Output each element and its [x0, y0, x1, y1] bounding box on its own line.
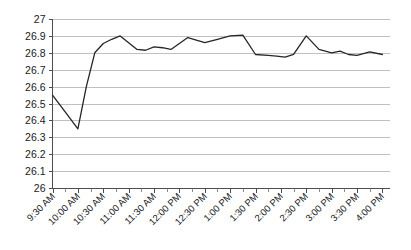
gridlines-group — [49, 20, 391, 189]
y-axis-tick-label: 26.5 — [25, 98, 46, 110]
y-axis-tick-label: 26.2 — [25, 148, 46, 160]
line-chart: 2726.926.826.726.626.526.426.326.226.126… — [0, 0, 411, 250]
x-axis-tick-label: 4:00 PM — [353, 191, 386, 224]
y-axis-tick-label: 26.6 — [25, 81, 46, 93]
y-axis-tick-label: 26.1 — [25, 165, 46, 177]
data-series-group — [53, 35, 383, 129]
chart-screenshot: 2726.926.826.726.626.526.426.326.226.126… — [0, 0, 411, 250]
y-axis-tick-label: 26.4 — [25, 114, 46, 126]
y-axis-tick-label: 26 — [34, 182, 46, 194]
ytick-labels-group: 2726.926.826.726.626.526.426.326.226.126 — [25, 13, 46, 194]
y-axis-tick-label: 26.9 — [25, 30, 46, 42]
y-axis-tick-label: 26.3 — [25, 131, 46, 143]
y-axis-tick-label: 26.7 — [25, 64, 46, 76]
y-axis-tick-label: 26.8 — [25, 47, 46, 59]
price-line-series — [53, 35, 383, 129]
y-axis-tick-label: 27 — [34, 13, 46, 25]
xtick-labels-group: 9:30 AM10:00 AM10:30 AM11:00 AM11:30 AM1… — [24, 191, 385, 228]
